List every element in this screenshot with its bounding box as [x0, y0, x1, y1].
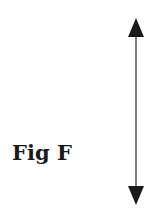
arrow-head-up-icon: [128, 18, 144, 37]
double-headed-arrow: [0, 0, 164, 223]
figure-label: Fig F: [12, 142, 72, 163]
arrow-head-down-icon: [128, 186, 144, 205]
